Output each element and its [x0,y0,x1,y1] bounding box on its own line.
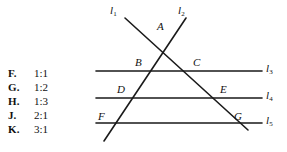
figure-canvas [0,0,287,152]
point-label-a: A [157,20,164,32]
point-label-c: C [193,56,200,68]
point-label-f: F [98,110,105,122]
transversal-line-l1 [125,18,248,130]
figure-question-page: F. 1:1 G. 1:2 H. 1:3 J. 2:1 K. 3:1 [0,0,287,152]
line-label-l1: l1 [110,4,117,16]
point-label-g: G [234,110,242,122]
point-label-b: B [135,56,142,68]
line-label-l5: l5 [266,114,273,126]
point-label-d: D [117,83,125,95]
line-label-l4: l4 [266,89,273,101]
geometry-figure: A B C D E F G l1 l2 l3 l4 l5 [0,0,287,152]
line-label-l3: l3 [266,62,273,74]
point-label-e: E [220,83,227,95]
line-label-l2: l2 [178,4,185,16]
